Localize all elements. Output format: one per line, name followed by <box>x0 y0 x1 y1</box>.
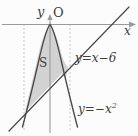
region-s-label: S <box>39 57 47 69</box>
origin-label: O <box>53 6 64 19</box>
figure-canvas <box>0 0 138 136</box>
math-figure: y O x S y=x−6 y=−x2 <box>0 0 138 136</box>
y-axis-label: y <box>37 5 44 18</box>
y-axis-arrow-icon <box>47 14 52 20</box>
parabola-equation-exponent: 2 <box>112 101 117 110</box>
x-axis-label: x <box>124 25 131 37</box>
parabola-equation-base: y=−x <box>78 102 112 116</box>
parabola-equation-label: y=−x2 <box>78 102 117 115</box>
line-equation-label: y=x−6 <box>75 52 116 64</box>
